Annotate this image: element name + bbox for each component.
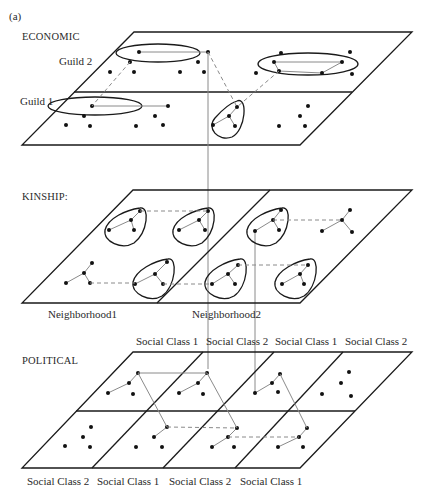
- bottom-column-label-3: Social Class 2: [169, 475, 231, 487]
- kinship-plane: [22, 190, 412, 303]
- economic-plane: [22, 32, 412, 145]
- top-column-label-2: Social Class 2: [206, 335, 268, 347]
- top-column-label-1: Social Class 1: [136, 335, 198, 347]
- column-label-neighborhood-1: Neighborhood1: [48, 308, 117, 320]
- top-column-label-4: Social Class 2: [345, 335, 407, 347]
- multilayer-network-diagram: .plane { fill: none; stroke: #1a1a1a; st…: [0, 0, 425, 498]
- political-plane: [22, 352, 412, 468]
- bottom-column-label-1: Social Class 2: [27, 475, 89, 487]
- bottom-column-label-2: Social Class 1: [97, 475, 159, 487]
- row-label-guild-1: Guild 1: [20, 95, 53, 107]
- layer-title-kinship: KINSHIP:: [22, 191, 68, 202]
- layer-title-economic: ECONOMIC: [22, 31, 80, 42]
- bottom-column-label-4: Social Class 1: [240, 475, 302, 487]
- column-label-neighborhood-2: Neighborhood2: [192, 308, 261, 320]
- top-column-label-3: Social Class 1: [275, 335, 337, 347]
- row-label-guild-2: Guild 2: [59, 55, 92, 67]
- panel-label: (a): [9, 10, 21, 22]
- layer-title-political: POLITICAL: [22, 355, 78, 366]
